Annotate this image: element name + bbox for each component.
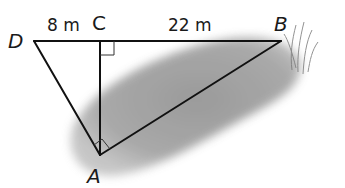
right-angle-marker-C [100,41,114,55]
pond-shading [71,37,301,176]
measure-CB: 22 m [168,15,212,35]
segment-DA [34,41,100,155]
point-label-D: D [8,29,23,53]
point-label-B: B [274,12,288,36]
point-label-A: A [85,164,101,188]
measure-DC: 8 m [47,15,80,35]
geometry-diagram: D C B A 8 m 22 m [0,0,345,188]
point-label-C: C [92,11,106,35]
